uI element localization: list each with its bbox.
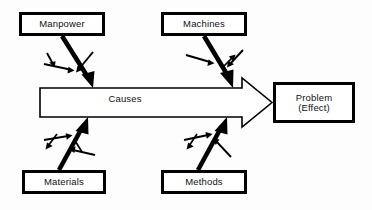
cause-effect-diagram: Causes Manpower Machines Materials Metho… — [0, 0, 372, 210]
category-box-materials[interactable]: Materials — [22, 170, 106, 194]
bone-machines — [186, 36, 243, 88]
category-label-manpower: Manpower — [39, 19, 85, 29]
category-label-methods: Methods — [185, 177, 223, 187]
effect-label-line2: (Effect) — [298, 103, 330, 113]
effect-label-line1: Problem — [296, 93, 332, 103]
category-box-methods[interactable]: Methods — [161, 170, 247, 194]
effect-box[interactable]: Problem (Effect) — [273, 82, 355, 123]
bone-materials — [44, 117, 95, 170]
category-label-machines: Machines — [183, 19, 225, 29]
bone-methods — [184, 117, 231, 170]
category-label-materials: Materials — [44, 177, 84, 187]
bone-manpower — [44, 36, 95, 88]
spine-arrow — [40, 78, 272, 127]
category-box-machines[interactable]: Machines — [161, 12, 247, 36]
category-box-manpower[interactable]: Manpower — [19, 12, 105, 36]
